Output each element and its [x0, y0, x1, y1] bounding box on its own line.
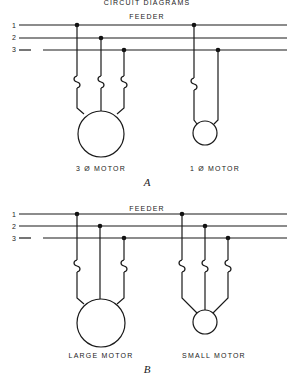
line-number-2-b: 2 [12, 223, 16, 230]
header-caption: CIRCUIT DIAGRAMS [104, 0, 191, 6]
fuse-icon [202, 260, 208, 272]
fuse-icon [98, 76, 104, 88]
motor-label: 3 Ø MOTOR [76, 165, 126, 172]
fuse-icon [179, 260, 185, 272]
large-motor-b: LARGE MOTOR [69, 212, 134, 359]
diagram-b: FEEDER 1 2 3 LARGE MOTOR [12, 205, 287, 375]
line-number-3-a: 3 [12, 46, 16, 53]
line-number-2-a: 2 [12, 34, 16, 41]
circuit-diagram-canvas: CIRCUIT DIAGRAMS FEEDER 1 2 3 3 Ø MOTOR [0, 0, 295, 379]
motor-icon [193, 310, 217, 334]
line-number-3-b: 3 [12, 235, 16, 242]
motor-icon [78, 111, 124, 157]
small-motor-b: SMALL MOTOR [179, 212, 246, 359]
fuse-icon [191, 78, 197, 90]
line-number-1-a: 1 [12, 22, 16, 29]
line-number-1-b: 1 [12, 211, 16, 218]
motor-label: 1 Ø MOTOR [190, 165, 240, 172]
motor-icon [193, 121, 217, 145]
fuse-icon [121, 76, 127, 88]
feeder-label-b: FEEDER [129, 205, 165, 212]
diagram-label-a: A [143, 176, 151, 188]
fuse-icon [225, 260, 231, 272]
feeder-label-a: FEEDER [129, 13, 165, 20]
fuse-icon [74, 260, 80, 272]
motor-label: LARGE MOTOR [69, 352, 134, 359]
motor-label: SMALL MOTOR [182, 352, 246, 359]
diagram-label-b: B [144, 363, 151, 375]
diagram-a: FEEDER 1 2 3 3 Ø MOTOR [12, 13, 287, 188]
single-phase-motor-a: 1 Ø MOTOR [190, 23, 240, 172]
fuse-icon [121, 260, 127, 272]
fuse-icon [74, 76, 80, 88]
three-phase-motor-a: 3 Ø MOTOR [74, 23, 127, 172]
motor-icon [77, 299, 125, 347]
